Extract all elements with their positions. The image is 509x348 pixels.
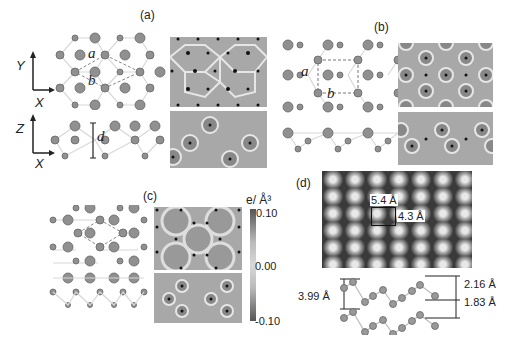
- panel-c-charge-map-top: [154, 207, 242, 270]
- panel-b-charge-map-top: [398, 43, 493, 107]
- panel-c-label: (c): [143, 189, 157, 203]
- colorbar-min: -0.10: [255, 315, 280, 327]
- interlayer-distance-label: 3.99 Å: [297, 290, 331, 302]
- panel-a-label: (a): [140, 8, 155, 22]
- axis-z-label: Z: [16, 121, 24, 136]
- panel-b-side-view: [280, 125, 400, 155]
- unit-cell-box: [371, 207, 396, 226]
- lattice-b-a-label: a: [301, 63, 309, 80]
- layer-thickness-d-label: d: [97, 128, 105, 145]
- panel-b-top-view: [280, 35, 400, 115]
- panel-a-charge-map-side: [170, 111, 267, 168]
- panel-b-label: (b): [374, 20, 389, 34]
- stm-height-label: 4.3 Å: [397, 210, 425, 222]
- stm-width-label: 5.4 Å: [370, 194, 398, 206]
- panel-b-charge-map-side: [398, 112, 493, 165]
- axis-x-label: X: [35, 95, 44, 110]
- panel-c-charge-map-side: [154, 273, 242, 323]
- panel-d-side-view: [340, 275, 470, 335]
- upper-height-label: 2.16 Å: [463, 278, 497, 290]
- panel-a-side-view: [50, 118, 170, 163]
- panel-d-label: (d): [296, 176, 311, 190]
- axis-y-label: Y: [16, 58, 25, 73]
- panel-c-structure: [48, 205, 153, 310]
- lattice-a-label: a: [88, 45, 96, 62]
- colorbar-max: 0.10: [256, 207, 277, 219]
- colorbar-unit: e/ Å³: [246, 193, 271, 207]
- panel-a-charge-map-top: [170, 37, 267, 107]
- lattice-b-label: b: [88, 72, 96, 89]
- lattice-b-b-label: b: [327, 85, 335, 102]
- lower-height-label: 1.83 Å: [463, 296, 497, 308]
- panel-a-top-view: [50, 30, 170, 110]
- axis-x-label-side: X: [35, 156, 44, 171]
- colorbar-mid: 0.00: [255, 260, 276, 272]
